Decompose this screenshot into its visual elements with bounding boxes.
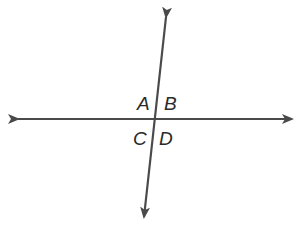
- intersecting-lines-diagram: A B C D: [0, 0, 306, 230]
- transversal-line: [144, 17, 166, 217]
- angle-label-c: C: [133, 128, 147, 149]
- angle-label-a: A: [136, 93, 150, 114]
- angle-label-b: B: [164, 93, 177, 114]
- angle-label-d: D: [159, 128, 173, 149]
